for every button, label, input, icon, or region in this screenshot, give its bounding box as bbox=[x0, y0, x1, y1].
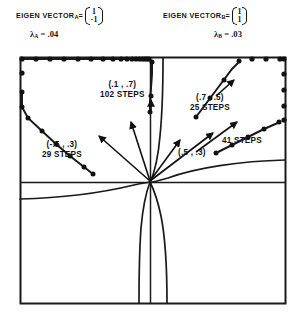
annotation-point-05-03: (.5 , .3) bbox=[178, 148, 206, 158]
annotation-steps-neg05-03: 29 STEPS bbox=[42, 150, 82, 160]
figure-page: EIGEN VECTORA= 1 -1 EIGEN VECTORB= 1 1 λ… bbox=[0, 0, 303, 335]
trajectory-top-edge bbox=[19, 56, 151, 75]
annotation-label-05-03: (.5 , .3) bbox=[178, 148, 206, 158]
phase-plane-plot bbox=[0, 0, 303, 335]
level-curve-upper-right bbox=[150, 160, 285, 183]
annotation-steps-41: 41 STEPS bbox=[222, 136, 262, 146]
annotation-point-01-07: (.1 , .7) bbox=[100, 80, 145, 90]
trajectory-line-neg05-03 bbox=[22, 92, 93, 174]
plot-frame bbox=[21, 58, 286, 304]
annotation-label-neg05-03: (-.5 , .3) 29 STEPS bbox=[42, 140, 82, 160]
trajectory-points-left-edge bbox=[19, 70, 24, 75]
level-curve-lower-left bbox=[20, 182, 150, 199]
annotation-steps-01-07: 102 STEPS bbox=[100, 90, 145, 100]
level-curve-lower-right-a bbox=[150, 182, 167, 303]
trajectory-points-neg05-03 bbox=[20, 90, 96, 177]
level-curve-lower-left-b bbox=[139, 182, 150, 303]
annotation-point-neg05-03: (-.5 , .3) bbox=[42, 140, 82, 150]
annotation-label-07-05: (.7 , .5) 25 STEPS bbox=[190, 93, 230, 113]
annotation-point-07-05: (.7 , .5) bbox=[190, 93, 230, 103]
trajectory-neg05-03 bbox=[20, 90, 96, 177]
annotation-label-01-07: (.1 , .7) 102 STEPS bbox=[100, 80, 145, 100]
annotation-steps-07-05: 25 STEPS bbox=[190, 103, 230, 113]
annotation-label-41-steps: 41 STEPS bbox=[222, 136, 262, 146]
